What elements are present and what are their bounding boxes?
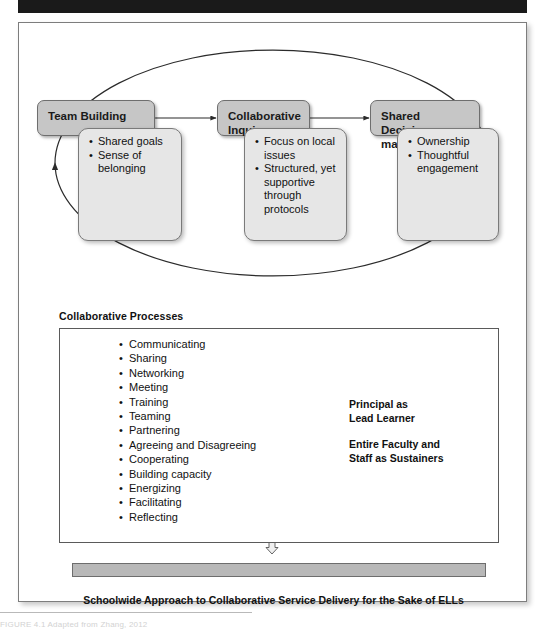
list-item: Energizing <box>119 481 256 495</box>
outcome-gray-bar <box>72 563 486 577</box>
role-line-2: Lead Learner <box>349 412 444 426</box>
process-detail-collaborative-inquiry: Focus on local issues Structured, yet su… <box>244 128 347 241</box>
list-item: Teaming <box>119 409 256 423</box>
list-item: Structured, yet supportive through proto… <box>264 162 338 216</box>
roles-spacer <box>349 425 444 438</box>
process-detail-team-building: Shared goals Sense of belonging <box>78 128 182 241</box>
role-line-3: Entire Faculty and <box>349 438 444 452</box>
source-note: FIGURE 4.1 Adapted from Zhang, 2012 <box>0 620 320 629</box>
list-item: Sharing <box>119 351 256 365</box>
list-item: Building capacity <box>119 467 256 481</box>
collaborative-processes-list: Communicating Sharing Networking Meeting… <box>119 337 256 524</box>
process-bullets-team-building: Shared goals Sense of belonging <box>85 135 173 176</box>
list-item: Communicating <box>119 337 256 351</box>
list-item: Partnering <box>119 423 256 437</box>
list-item: Facilitating <box>119 495 256 509</box>
page-header-bar <box>18 0 527 13</box>
list-item: Thoughtful engagement <box>417 149 490 176</box>
figure-frame: Team Building Shared goals Sense of belo… <box>18 22 527 602</box>
source-note-rule <box>0 612 252 613</box>
process-bullets-shared-decision-making: Ownership Thoughtful engagement <box>404 135 490 176</box>
down-arrow-icon <box>266 543 278 555</box>
list-item: Networking <box>119 366 256 380</box>
list-item: Training <box>119 395 256 409</box>
outcome-caption: Schoolwide Approach to Collaborative Ser… <box>19 594 528 606</box>
list-item: Meeting <box>119 380 256 394</box>
list-item: Focus on local issues <box>264 135 338 162</box>
process-bullets-collaborative-inquiry: Focus on local issues Structured, yet su… <box>251 135 338 216</box>
list-item: Shared goals <box>98 135 173 149</box>
list-item: Agreeing and Disagreeing <box>119 438 256 452</box>
list-item: Cooperating <box>119 452 256 466</box>
list-item: Reflecting <box>119 510 256 524</box>
roles-annotation: Principal as Lead Learner Entire Faculty… <box>349 398 444 465</box>
role-line-1: Principal as <box>349 398 444 412</box>
list-item: Ownership <box>417 135 490 149</box>
list-item: Sense of belonging <box>98 149 173 176</box>
collaborative-processes-heading: Collaborative Processes <box>59 310 183 322</box>
role-line-4: Staff as Sustainers <box>349 452 444 466</box>
process-detail-shared-decision-making: Ownership Thoughtful engagement <box>397 128 499 241</box>
